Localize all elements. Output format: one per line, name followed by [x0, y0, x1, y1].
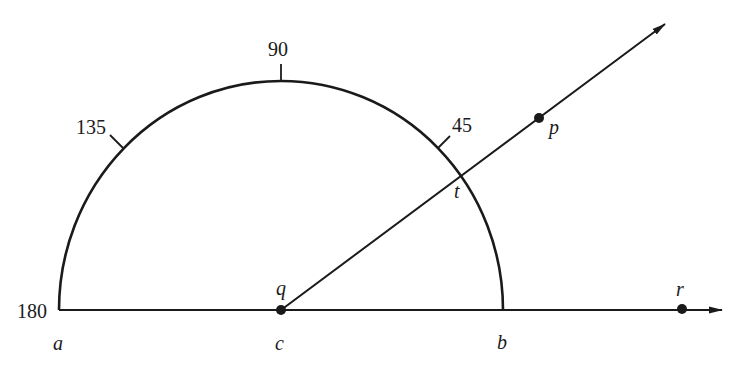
- point-r: [677, 304, 687, 314]
- label-135: 135: [76, 116, 106, 138]
- label-p: p: [547, 116, 559, 139]
- label-180: 180: [17, 300, 47, 322]
- ray-qp: [281, 24, 665, 310]
- label-90: 90: [268, 38, 288, 60]
- label-b: b: [497, 331, 507, 353]
- label-c: c: [275, 332, 284, 354]
- protractor-diagram: 180 135 90 45 a c b q t p r: [0, 0, 741, 366]
- point-p: [534, 113, 544, 123]
- label-a: a: [53, 332, 63, 354]
- label-q: q: [276, 277, 286, 300]
- tick-135: [110, 135, 123, 148]
- label-r: r: [676, 278, 684, 300]
- label-t: t: [454, 180, 460, 202]
- point-q: [276, 305, 286, 315]
- label-45: 45: [452, 114, 472, 136]
- tick-45: [438, 136, 450, 148]
